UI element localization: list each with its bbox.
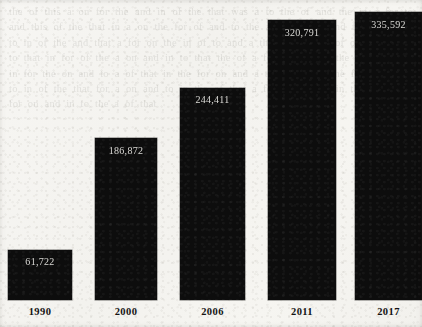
bar-2000	[95, 138, 157, 300]
bar-value-label-2000: 186,872	[95, 145, 157, 156]
x-axis-tick-label-2017: 2017	[355, 306, 422, 317]
bar-2006	[180, 88, 245, 300]
x-axis-tick-label-2000: 2000	[95, 306, 157, 317]
x-axis-tick-label-2006: 2006	[180, 306, 245, 317]
bar-value-label-2011: 320,791	[268, 27, 336, 38]
bar-chart: 61,722186,872244,411320,791335,592199020…	[0, 0, 422, 327]
bar-value-label-1990: 61,722	[8, 256, 72, 267]
scanned-document-page: the of this a on for the and in of the t…	[0, 0, 422, 327]
x-axis-tick-label-2011: 2011	[268, 306, 336, 317]
bar-2017	[355, 12, 422, 300]
bar-value-label-2017: 335,592	[355, 19, 422, 30]
bar-value-label-2006: 244,411	[180, 94, 245, 105]
x-axis-tick-label-1990: 1990	[8, 306, 72, 317]
bar-2011	[268, 20, 336, 300]
